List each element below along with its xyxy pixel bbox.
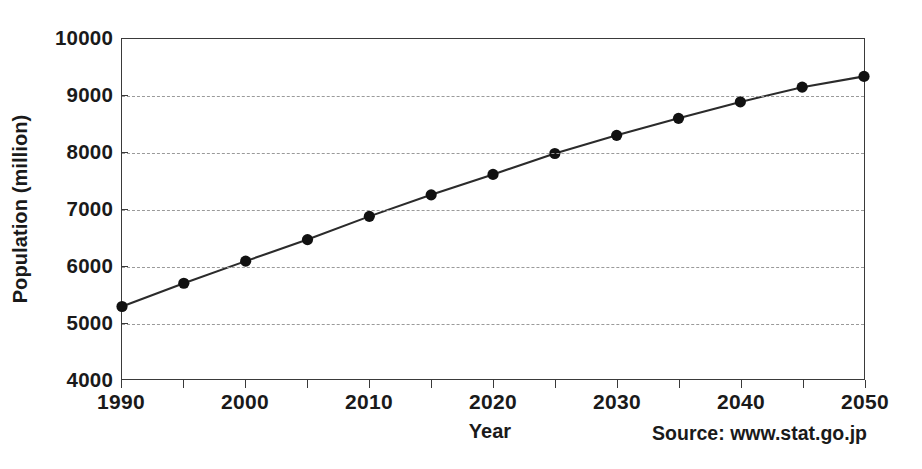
- source-note: Source: www.stat.go.jp: [652, 422, 867, 445]
- data-point-marker: 2020: 7610: [487, 169, 498, 180]
- data-point-marker: 1995: 5690: [178, 278, 189, 289]
- x-axis-tick-mark: [865, 380, 866, 388]
- x-axis-tick-label: 2020: [469, 390, 517, 414]
- x-axis-tick-mark: [245, 380, 246, 388]
- x-axis-tick-mark: [183, 380, 184, 388]
- x-axis-tick-mark: [555, 380, 556, 388]
- y-axis-tick-label: 10000: [5, 26, 113, 50]
- x-axis-tick-mark: [121, 380, 122, 388]
- plot-area: 1990: 52801995: 56902000: 60802005: 6460…: [121, 38, 865, 380]
- data-point-marker: 2010: 6870: [364, 211, 375, 222]
- gridline: [122, 210, 864, 211]
- gridline: [122, 324, 864, 325]
- y-axis-tick-mark: [121, 323, 128, 324]
- data-point-marker: 2000: 6080: [240, 256, 251, 267]
- data-line: [122, 76, 864, 306]
- data-point-marker: 2045: 9150: [797, 82, 808, 93]
- data-point-marker: 2005: 6460: [302, 234, 313, 245]
- x-axis-tick-label: 2030: [593, 390, 641, 414]
- x-axis-tick-mark: [741, 380, 742, 388]
- x-axis-tick-mark: [369, 380, 370, 388]
- y-axis-tick-mark: [121, 152, 128, 153]
- x-axis-tick-label: 2050: [841, 390, 889, 414]
- y-axis-tick-label: 8000: [5, 140, 113, 164]
- data-point-marker: 2050: 9340: [858, 71, 869, 82]
- gridline: [122, 96, 864, 97]
- x-axis-tick-mark: [493, 380, 494, 388]
- x-axis-tick-mark: [307, 380, 308, 388]
- x-axis-tick-label: 2000: [221, 390, 269, 414]
- y-axis-tick-label: 4000: [5, 368, 113, 392]
- data-point-marker: 2015: 7250: [426, 189, 437, 200]
- data-point-marker: 2035: 8600: [673, 113, 684, 124]
- y-axis-tick-mark: [121, 95, 128, 96]
- y-axis-tick-label: 6000: [5, 254, 113, 278]
- x-axis-title: Year: [469, 420, 511, 443]
- x-axis-tick-label: 1990: [97, 390, 145, 414]
- y-axis-tick-mark: [121, 266, 128, 267]
- x-axis-tick-mark: [679, 380, 680, 388]
- y-axis-tick-label: 7000: [5, 197, 113, 221]
- y-axis-tick-mark: [121, 209, 128, 210]
- population-line-chart: Population (million) 4000500060007000800…: [0, 0, 922, 469]
- y-axis-tick-label: 9000: [5, 83, 113, 107]
- x-axis-tick-mark: [431, 380, 432, 388]
- gridline: [122, 267, 864, 268]
- data-point-marker: 2040: 8890: [735, 96, 746, 107]
- data-point-marker: 1990: 5280: [116, 301, 127, 312]
- gridline: [122, 153, 864, 154]
- x-axis-tick-mark: [617, 380, 618, 388]
- x-axis-tick-label: 2010: [345, 390, 393, 414]
- y-axis-tick-label: 5000: [5, 311, 113, 335]
- data-point-marker: 2030: 8300: [611, 130, 622, 141]
- series-line: 1990: 52801995: 56902000: 60802005: 6460…: [122, 39, 864, 379]
- x-axis-tick-label: 2040: [717, 390, 765, 414]
- x-axis-tick-mark: [803, 380, 804, 388]
